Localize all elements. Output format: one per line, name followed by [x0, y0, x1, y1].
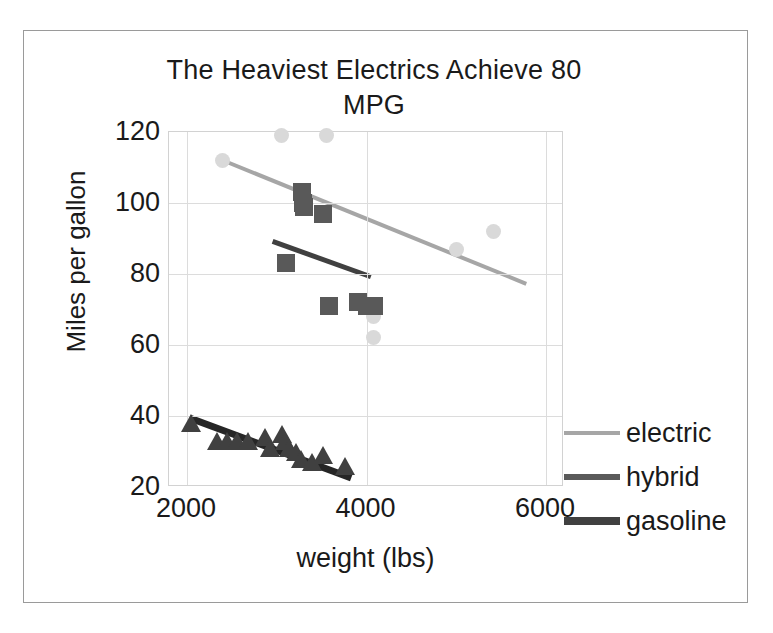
- y-tick-label: 100: [90, 187, 160, 218]
- legend-item-electric[interactable]: electric: [564, 411, 764, 455]
- y-tick-label: 60: [90, 329, 160, 360]
- x-axis-label: weight (lbs): [168, 543, 563, 574]
- gridline-horizontal: [169, 345, 562, 346]
- x-tick-label: 2000: [126, 493, 246, 524]
- data-point-gasoline: [313, 446, 333, 464]
- plot-area: [168, 131, 563, 486]
- chart-title: The Heaviest Electrics Achieve 80 MPG: [144, 53, 604, 122]
- gridline-horizontal: [169, 274, 562, 275]
- legend-label: gasoline: [626, 506, 727, 537]
- data-point-gasoline: [335, 457, 355, 475]
- y-axis-ticks: 20406080100120: [82, 131, 160, 486]
- legend-label: electric: [626, 418, 712, 449]
- gridline-vertical: [546, 132, 547, 485]
- data-point-electric: [319, 128, 334, 143]
- legend-label: hybrid: [626, 462, 700, 493]
- data-point-hybrid: [277, 254, 295, 272]
- data-point-hybrid: [365, 297, 383, 315]
- data-point-gasoline: [181, 414, 201, 432]
- legend-swatch-icon: [564, 517, 620, 525]
- data-point-hybrid: [295, 198, 313, 216]
- x-tick-label: 4000: [306, 493, 426, 524]
- trend-line-electric: [223, 160, 527, 284]
- legend-swatch-icon: [564, 431, 620, 435]
- y-tick-label: 120: [90, 116, 160, 147]
- data-point-hybrid: [320, 297, 338, 315]
- data-point-electric: [449, 242, 464, 257]
- gridline-horizontal: [169, 203, 562, 204]
- y-tick-label: 80: [90, 258, 160, 289]
- gridline-horizontal: [169, 416, 562, 417]
- chart-frame: The Heaviest Electrics Achieve 80 MPG Mi…: [23, 30, 748, 603]
- legend-item-hybrid[interactable]: hybrid: [564, 455, 764, 499]
- data-point-electric: [274, 128, 289, 143]
- legend-item-gasoline[interactable]: gasoline: [564, 499, 764, 543]
- x-axis-ticks: 200040006000: [168, 493, 563, 529]
- data-point-hybrid: [314, 205, 332, 223]
- legend-swatch-icon: [564, 474, 620, 480]
- y-tick-label: 40: [90, 400, 160, 431]
- legend: electrichybridgasoline: [564, 411, 764, 543]
